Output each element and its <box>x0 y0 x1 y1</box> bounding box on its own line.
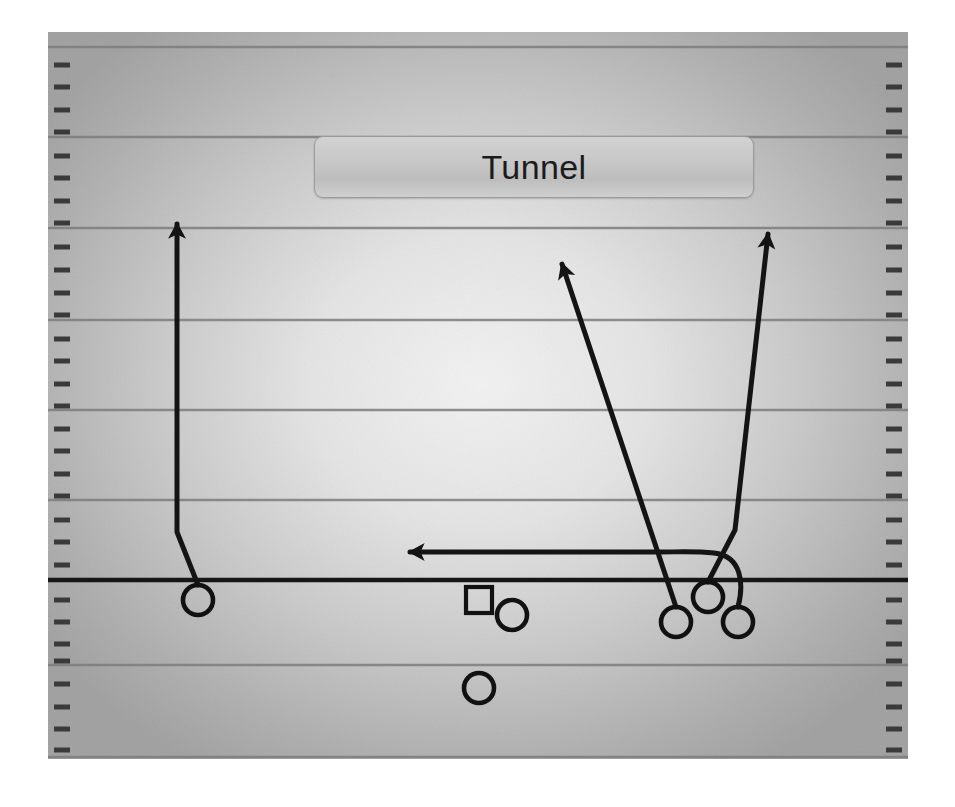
page-title: Tunnel <box>481 150 586 184</box>
play-diagram-stage: Tunnel <box>0 0 955 807</box>
play-title-box: Tunnel <box>314 136 754 198</box>
football-field: Tunnel <box>48 32 908 759</box>
